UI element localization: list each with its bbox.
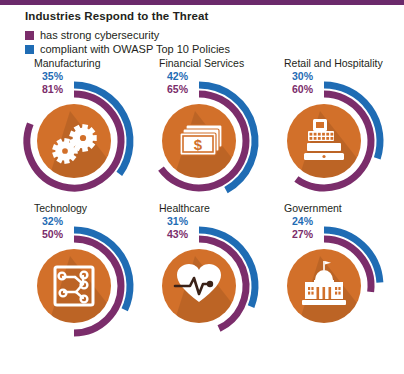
legend-swatch-blue	[25, 45, 34, 54]
industry-name: Technology	[34, 202, 87, 214]
industry-card-financial-services: Financial Services42%65%$	[141, 57, 265, 207]
industry-name: Financial Services	[159, 57, 244, 69]
donut-chart: $	[141, 79, 265, 197]
donut-chart	[16, 224, 140, 342]
donut-chart	[16, 79, 140, 197]
legend-item-owasp-compliant: compliant with OWASP Top 10 Policies	[25, 43, 230, 55]
donut-chart	[266, 224, 390, 342]
industry-card-government: Government24%27%	[266, 202, 390, 352]
industry-name: Healthcare	[159, 202, 210, 214]
industry-card-manufacturing: Manufacturing35%81%	[16, 57, 140, 207]
legend-label-0: has strong cybersecurity	[40, 29, 159, 41]
donut-chart	[141, 224, 265, 342]
legend-label-1: compliant with OWASP Top 10 Policies	[40, 43, 230, 55]
industry-card-technology: Technology32%50%	[16, 202, 140, 352]
industry-card-healthcare: Healthcare31%43%	[141, 202, 265, 352]
industry-name: Manufacturing	[34, 57, 101, 69]
page-title: Industries Respond to the Threat	[25, 10, 208, 22]
infographic-page: Industries Respond to the Threat has str…	[0, 5, 404, 374]
svg-text:$: $	[194, 136, 203, 153]
donut-chart	[266, 79, 390, 197]
industry-name: Retail and Hospitality	[284, 57, 383, 69]
industry-card-retail-and-hospitality: Retail and Hospitality30%60%	[266, 57, 390, 207]
legend-item-strong-cybersecurity: has strong cybersecurity	[25, 29, 159, 41]
industry-name: Government	[284, 202, 342, 214]
legend-swatch-purple	[25, 31, 34, 40]
banknotes-dollar-icon: $	[180, 125, 222, 155]
